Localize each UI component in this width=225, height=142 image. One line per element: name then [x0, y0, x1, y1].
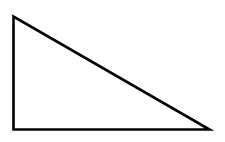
- triangle-diagram: [0, 0, 225, 142]
- right-triangle-shape: [14, 17, 210, 130]
